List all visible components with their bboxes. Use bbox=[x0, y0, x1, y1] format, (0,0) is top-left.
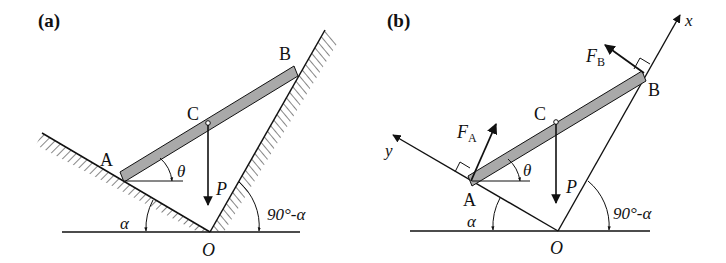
label-complement-angle: 90°-α bbox=[613, 204, 652, 223]
label-x-axis: x bbox=[684, 11, 693, 30]
label-FA: FA bbox=[456, 122, 477, 145]
panel-b: (b) A B C O P θ α 90°-α x bbox=[383, 10, 693, 258]
right-wall-hatch bbox=[210, 30, 338, 232]
label-A: A bbox=[100, 150, 113, 170]
label-P: P bbox=[565, 177, 577, 197]
label-y-axis: y bbox=[383, 141, 393, 160]
panel-label-b: (b) bbox=[387, 10, 410, 32]
label-P: P bbox=[215, 179, 227, 199]
complement-angle-arc bbox=[588, 181, 609, 230]
point-C bbox=[554, 120, 559, 125]
point-C bbox=[206, 121, 211, 126]
label-alpha: α bbox=[120, 214, 130, 233]
force-FB-arrow bbox=[605, 45, 644, 73]
label-O: O bbox=[550, 238, 563, 258]
right-angle-marker-A bbox=[455, 162, 470, 172]
panel-label-a: (a) bbox=[38, 10, 60, 32]
alpha-arc bbox=[493, 198, 500, 230]
label-FB-sub: B bbox=[597, 55, 605, 69]
label-C: C bbox=[187, 104, 199, 124]
label-C: C bbox=[534, 104, 546, 124]
label-FA-sub: A bbox=[468, 131, 477, 145]
label-theta: θ bbox=[523, 161, 531, 180]
label-B: B bbox=[279, 44, 291, 64]
diagram-canvas: (a) A B C O P θ α 90°-α (b) bbox=[0, 0, 726, 263]
panel-a: (a) A B C O P θ α 90°-α bbox=[36, 10, 338, 260]
label-alpha: α bbox=[467, 212, 477, 231]
label-complement-angle: 90°-α bbox=[267, 205, 306, 224]
label-A: A bbox=[463, 190, 476, 210]
theta-arc bbox=[160, 158, 172, 181]
label-FB: FB bbox=[585, 46, 605, 69]
label-B: B bbox=[648, 80, 660, 100]
label-theta: θ bbox=[177, 162, 185, 181]
label-O: O bbox=[202, 240, 215, 260]
right-wall bbox=[210, 30, 325, 232]
